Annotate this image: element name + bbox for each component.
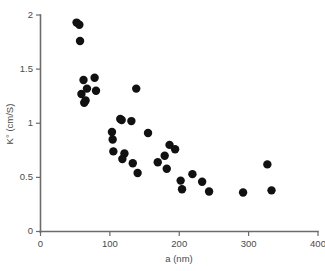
data-point [108, 128, 116, 136]
data-point [178, 185, 186, 193]
data-point [163, 165, 171, 173]
data-point [81, 96, 89, 104]
data-point [75, 21, 83, 29]
data-point [129, 159, 137, 167]
y-tick-label: 0.5 [20, 171, 33, 182]
data-point [205, 187, 213, 195]
x-axis-label: a (nm) [165, 253, 192, 264]
x-tick-label: 0 [38, 238, 43, 249]
x-tick-label: 400 [310, 238, 325, 249]
data-point [154, 158, 162, 166]
y-tick-label: 0 [28, 225, 33, 236]
plot-svg: 00.511.52 0100200300400 a (nm) K° (cm/S) [0, 0, 325, 271]
x-tick-label: 200 [171, 238, 187, 249]
data-point [83, 84, 91, 92]
data-point [120, 149, 128, 157]
y-tick-label: 2 [28, 9, 33, 20]
data-point [79, 76, 87, 84]
data-point [133, 169, 141, 177]
x-axis-ticks: 0100200300400 [38, 232, 325, 249]
y-tick-label: 1.5 [20, 63, 33, 74]
scatter-chart: 00.511.52 0100200300400 a (nm) K° (cm/S) [0, 0, 325, 271]
y-axis-ticks: 00.511.52 [20, 9, 41, 237]
y-axis-label: K° (cm/S) [4, 104, 15, 145]
data-point [171, 145, 179, 153]
data-point [239, 188, 247, 196]
data-point [76, 37, 84, 45]
data-point [176, 176, 184, 184]
x-tick-label: 100 [102, 238, 118, 249]
data-point [144, 129, 152, 137]
x-tick-label: 300 [241, 238, 257, 249]
y-tick-label: 1 [28, 117, 33, 128]
data-point [198, 178, 206, 186]
data-point [109, 147, 117, 155]
data-point [263, 160, 271, 168]
data-point [92, 87, 100, 95]
data-point [117, 116, 125, 124]
data-point [132, 84, 140, 92]
data-point [108, 135, 116, 143]
data-point [160, 152, 168, 160]
data-point [188, 170, 196, 178]
data-point [90, 74, 98, 82]
data-point [267, 186, 275, 194]
data-point [127, 117, 135, 125]
data-points [72, 18, 275, 196]
